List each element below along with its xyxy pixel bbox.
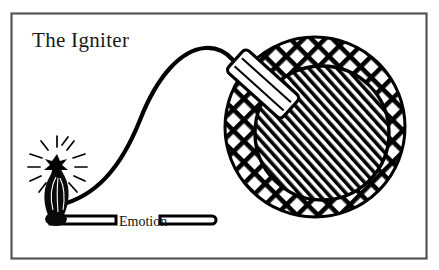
page-title: The Igniter <box>32 28 129 52</box>
bomb-group <box>225 37 405 217</box>
igniter-diagram: The Igniter Emotion <box>0 0 439 270</box>
emotion-label: Emotion <box>119 214 167 229</box>
match-head <box>45 212 67 226</box>
illustration-canvas: The Igniter Emotion <box>0 0 439 270</box>
match-stick-right <box>160 216 216 224</box>
